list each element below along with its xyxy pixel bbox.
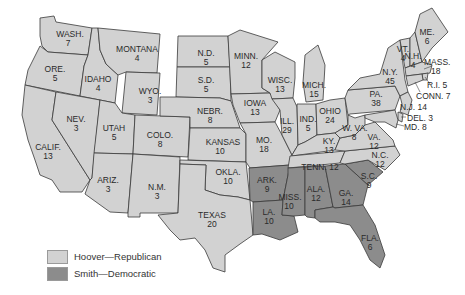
svg-text:14: 14: [341, 197, 351, 207]
svg-text:18: 18: [259, 144, 269, 154]
svg-text:13: 13: [250, 107, 260, 117]
svg-text:9: 9: [367, 180, 372, 190]
svg-text:MD. 8: MD. 8: [404, 122, 427, 132]
svg-text:45: 45: [385, 76, 395, 86]
svg-text:18: 18: [431, 66, 441, 76]
svg-text:3: 3: [106, 184, 111, 194]
legend-item-hoover: Hoover—Republican: [47, 249, 162, 264]
svg-text:4: 4: [96, 83, 101, 93]
svg-text:CONN. 7: CONN. 7: [416, 91, 451, 101]
svg-text:13: 13: [324, 145, 334, 155]
svg-text:13: 13: [275, 84, 285, 94]
svg-text:8: 8: [352, 132, 357, 142]
svg-text:8: 8: [208, 115, 213, 125]
svg-text:7: 7: [66, 38, 71, 48]
svg-text:12: 12: [369, 141, 379, 151]
svg-text:6: 6: [425, 36, 430, 46]
svg-text:4: 4: [411, 60, 416, 70]
svg-text:13: 13: [43, 151, 53, 161]
svg-text:4: 4: [135, 53, 140, 63]
legend-label: Hoover—Republican: [74, 251, 162, 262]
state-connecticut: [406, 74, 423, 86]
svg-text:10: 10: [215, 146, 225, 156]
svg-text:3: 3: [74, 123, 79, 133]
svg-text:12: 12: [375, 159, 385, 169]
svg-text:3: 3: [155, 191, 160, 201]
legend-label: Smith—Democratic: [74, 268, 156, 279]
svg-text:12: 12: [241, 60, 251, 70]
legend-item-smith: Smith—Democratic: [47, 266, 162, 281]
svg-text:24: 24: [325, 115, 335, 125]
legend: Hoover—Republican Smith—Democratic: [47, 249, 162, 283]
svg-text:10: 10: [264, 216, 274, 226]
svg-text:5: 5: [53, 73, 58, 83]
svg-text:5: 5: [306, 123, 311, 133]
svg-text:12: 12: [311, 193, 321, 203]
svg-text:15: 15: [309, 89, 319, 99]
svg-text:10: 10: [223, 176, 233, 186]
svg-text:29: 29: [282, 125, 292, 135]
svg-text:TENN. 12: TENN. 12: [301, 162, 339, 172]
svg-text:9: 9: [265, 184, 270, 194]
svg-text:10: 10: [284, 201, 294, 211]
svg-text:N.J. 14: N.J. 14: [400, 102, 427, 112]
svg-text:R.I. 5: R.I. 5: [427, 80, 448, 90]
svg-text:38: 38: [371, 98, 381, 108]
swatch-democratic: [47, 267, 68, 281]
svg-text:5: 5: [204, 84, 209, 94]
svg-text:6: 6: [368, 242, 373, 252]
svg-text:20: 20: [207, 219, 217, 229]
svg-text:5: 5: [112, 132, 117, 142]
svg-text:8: 8: [158, 139, 163, 149]
svg-text:3: 3: [148, 95, 153, 105]
swatch-republican: [47, 250, 68, 264]
svg-text:5: 5: [204, 57, 209, 67]
